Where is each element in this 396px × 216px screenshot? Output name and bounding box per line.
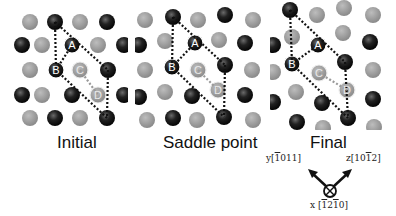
z-axis-label: z[1012] (346, 153, 381, 163)
y-axis-label: y[1011] (266, 153, 301, 163)
atom-tag-a: A (191, 37, 199, 49)
gray-atom (72, 110, 88, 126)
atom-tag-c: C (315, 67, 323, 79)
black-atom (47, 110, 63, 126)
x-axis-label: x [1210] (310, 200, 348, 210)
gray-atom (366, 119, 382, 135)
black-atom (237, 87, 253, 103)
gray-atom (245, 112, 261, 128)
label-saddle-point: Saddle point (163, 133, 258, 153)
black-atom (265, 94, 281, 110)
gray-atom (336, 0, 352, 16)
lattice-diagram: ABCDABCDABCD (0, 0, 396, 216)
atom-tag-d: D (214, 84, 222, 96)
black-atom (99, 14, 115, 30)
gray-atom (34, 37, 50, 53)
black-atom (362, 34, 378, 50)
black-atom (265, 37, 281, 53)
figure: ABCDABCDABCD Initial Saddle point Final … (0, 0, 396, 216)
gray-atom (335, 25, 351, 41)
gray-atom (137, 62, 153, 78)
black-atom (365, 91, 381, 107)
label-initial: Initial (57, 133, 97, 153)
atom-tag-a: A (68, 39, 76, 51)
panel-final: ABCD (265, 0, 382, 136)
gray-atom (288, 84, 304, 100)
gray-atom (72, 14, 88, 30)
atom-tag-d: D (94, 89, 102, 101)
black-atom (14, 37, 30, 53)
black-atom (289, 114, 305, 130)
gray-atom (244, 62, 260, 78)
atom-tag-b: B (288, 58, 295, 70)
gray-atom (22, 62, 38, 78)
black-atom (131, 89, 147, 105)
black-atom (116, 37, 132, 53)
gray-atom (365, 7, 381, 23)
black-atom (237, 35, 253, 51)
axis-triad (308, 169, 352, 197)
gray-atom (157, 84, 173, 100)
atom-tag-b: B (52, 64, 59, 76)
gray-atom (22, 14, 38, 30)
black-atom (116, 87, 132, 103)
atom-tag-c: C (76, 64, 84, 76)
panel-initial: ABCD (14, 14, 132, 126)
gray-atom (139, 112, 155, 128)
gray-atom (365, 62, 381, 78)
gray-atom (90, 37, 106, 53)
atom-tag-c: C (194, 64, 202, 76)
gray-atom (22, 110, 38, 126)
gray-atom (211, 32, 227, 48)
black-atom (131, 37, 147, 53)
gray-atom (34, 87, 50, 103)
atom-tag-d: D (343, 84, 351, 96)
gray-atom (137, 12, 153, 28)
black-atom (217, 7, 233, 23)
atom-tag-a: A (314, 39, 322, 51)
panel-saddle: ABCD (131, 7, 261, 128)
gray-atom (265, 64, 281, 80)
label-final: Final (310, 133, 347, 153)
atom-tag-b: B (168, 61, 175, 73)
black-atom (165, 110, 181, 126)
gray-atom (309, 7, 325, 23)
gray-atom (157, 33, 173, 49)
gray-atom (245, 12, 261, 28)
gray-atom (189, 112, 205, 128)
z-axis-arrow (333, 174, 347, 187)
gray-atom (190, 12, 206, 28)
black-atom (14, 87, 30, 103)
y-axis-arrow (313, 174, 327, 187)
black-atom (184, 88, 200, 104)
